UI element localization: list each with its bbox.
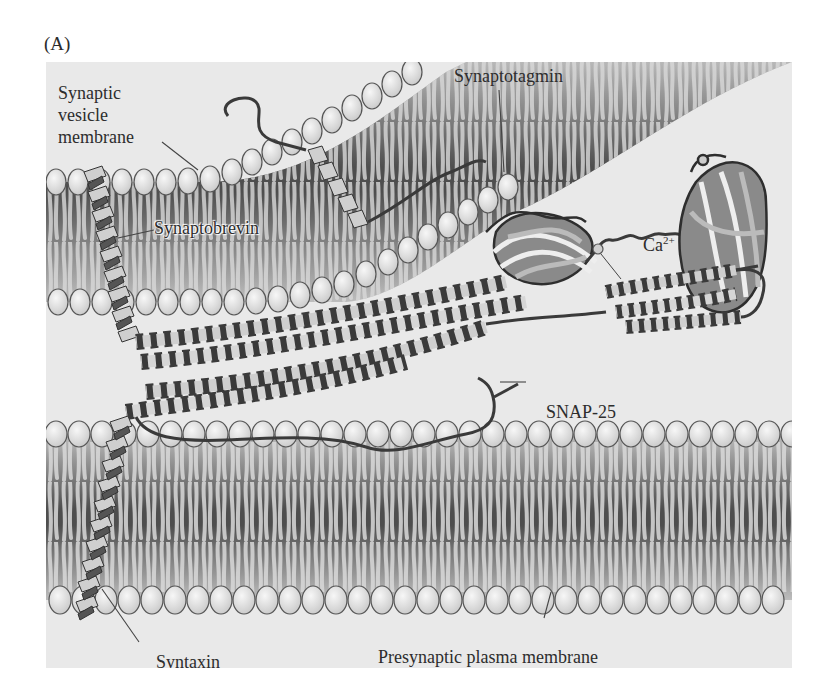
label-syntaxin: Syntaxin bbox=[156, 652, 220, 668]
synaptotagmin-c2b-domain bbox=[679, 155, 766, 312]
calcium-symbol: Ca bbox=[643, 235, 663, 255]
panel-label: (A) bbox=[44, 33, 70, 55]
label-snap25: SNAP-25 bbox=[546, 402, 616, 422]
label-line-2: vesicle bbox=[58, 104, 134, 126]
leader-vesicle-membrane bbox=[162, 142, 198, 170]
label-line-1: Synaptic bbox=[58, 82, 134, 104]
label-line-3: membrane bbox=[58, 126, 134, 148]
calcium-charge: 2+ bbox=[663, 234, 675, 246]
label-synaptotagmin: Synaptotagmin bbox=[454, 66, 563, 86]
label-synaptobrevin: Synaptobrevin bbox=[154, 218, 259, 238]
synaptotagmin-c2a-domain bbox=[486, 212, 596, 284]
label-synaptic-vesicle-membrane: Synaptic vesicle membrane bbox=[58, 82, 134, 148]
label-calcium: Ca2+ bbox=[643, 230, 675, 255]
snare-complex-illustration: Synaptic vesicle membrane Synaptotagmin … bbox=[46, 62, 792, 668]
calcium-ion bbox=[593, 244, 621, 279]
illustration-canvas bbox=[46, 62, 792, 668]
label-presynaptic-plasma-membrane: Presynaptic plasma membrane bbox=[378, 647, 598, 667]
plasma-membrane bbox=[46, 421, 792, 614]
